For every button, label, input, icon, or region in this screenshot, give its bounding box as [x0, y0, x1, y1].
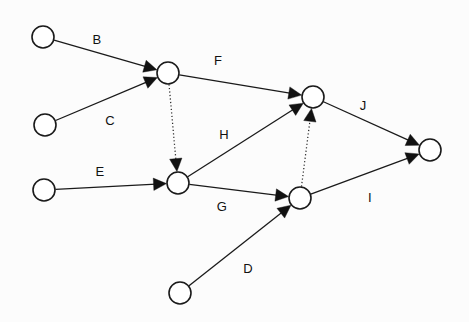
- diagram-canvas: BCFEHGDIJ: [0, 0, 469, 322]
- graph-node-n5[interactable]: [167, 172, 189, 194]
- arrowhead-icon: [170, 158, 182, 172]
- edge-label-j: J: [360, 98, 367, 113]
- nodes-layer: [32, 26, 441, 304]
- edge-e-line: [55, 184, 156, 189]
- edge-eID-line: [301, 119, 310, 187]
- graph-node-n2[interactable]: [34, 114, 56, 136]
- arrowhead-icon: [288, 87, 302, 99]
- arrowhead-icon: [277, 205, 291, 218]
- edge-j-line: [323, 102, 409, 141]
- edge-label-c: C: [105, 113, 115, 128]
- arrowhead-icon: [153, 178, 166, 190]
- graph-node-n8[interactable]: [419, 139, 441, 161]
- edge-g-line: [189, 184, 278, 195]
- edge-d-line: [189, 212, 283, 286]
- graph-node-n9[interactable]: [169, 282, 191, 304]
- arrowhead-icon: [289, 103, 303, 115]
- graph-node-n1[interactable]: [32, 26, 54, 48]
- edge-eFD-line: [169, 84, 176, 161]
- edge-h-line: [188, 109, 295, 177]
- edge-label-e: E: [96, 164, 105, 179]
- arrowhead-icon: [405, 153, 419, 165]
- edge-labels-layer: BCFEHGDIJ: [93, 32, 372, 276]
- edge-label-d: D: [243, 261, 253, 276]
- graph-node-n6[interactable]: [302, 86, 324, 108]
- edge-label-g: G: [217, 199, 227, 214]
- directed-graph-svg: BCFEHGDIJ: [0, 0, 469, 322]
- graph-node-n7[interactable]: [289, 187, 311, 209]
- edge-i-line: [311, 158, 410, 194]
- edge-label-i: I: [368, 190, 372, 205]
- edge-f-line: [179, 75, 291, 94]
- arrowhead-icon: [304, 108, 316, 122]
- edge-label-f: F: [214, 53, 222, 68]
- arrowhead-icon: [143, 60, 157, 72]
- edge-label-b: B: [93, 32, 102, 47]
- graph-node-n3[interactable]: [33, 179, 55, 201]
- arrowhead-icon: [275, 189, 289, 201]
- edge-label-h: H: [219, 127, 229, 142]
- edges-layer: [54, 40, 419, 286]
- edge-c-line: [56, 82, 148, 121]
- graph-node-n4[interactable]: [157, 62, 179, 84]
